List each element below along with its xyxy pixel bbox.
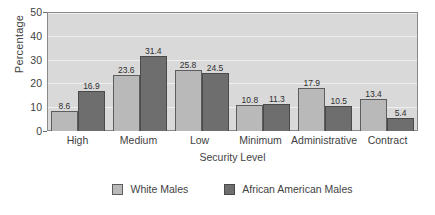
x-tick-label: High [47, 134, 108, 146]
bar-value-label: 5.4 [395, 108, 407, 118]
bar-value-label: 16.9 [83, 81, 100, 91]
y-tick-label: 40 [14, 30, 42, 42]
bar: 10.5 [325, 106, 352, 131]
bar-value-label: 24.5 [207, 63, 224, 73]
legend-swatch [112, 184, 123, 195]
bar-value-label: 23.6 [118, 65, 135, 75]
bar-value-label: 17.9 [303, 78, 320, 88]
bar-group: 23.631.4 [109, 12, 171, 131]
bar: 13.4 [360, 99, 387, 131]
bar-value-label: 13.4 [365, 89, 382, 99]
bar-groups: 8.616.923.631.425.824.510.811.317.910.51… [47, 12, 418, 131]
y-tick-label: 20 [14, 77, 42, 89]
x-axis-title: Security Level [47, 151, 418, 163]
bar: 23.6 [113, 75, 140, 131]
legend-label: White Males [130, 183, 188, 195]
x-tick-label: Low [169, 134, 230, 146]
y-tick-label: 30 [14, 54, 42, 66]
bar: 8.6 [51, 111, 78, 131]
bar: 11.3 [263, 104, 290, 131]
bar: 25.8 [175, 70, 202, 131]
bar-chart-figure: Percentage 50 40 30 20 10 0 8.616.923.63… [0, 0, 435, 215]
bar: 5.4 [387, 118, 414, 131]
y-tick-label: 10 [14, 101, 42, 113]
x-axis-tick-labels: HighMediumLowMinimumAdministrativeContra… [47, 134, 418, 146]
bar-group: 8.616.9 [47, 12, 109, 131]
bar-group: 25.824.5 [171, 12, 233, 131]
bar-group: 10.811.3 [232, 12, 294, 131]
y-tickmark [43, 131, 47, 132]
bar-group: 13.45.4 [356, 12, 418, 131]
bar: 16.9 [78, 91, 105, 131]
bar-value-label: 31.4 [145, 46, 162, 56]
bar: 24.5 [202, 73, 229, 131]
x-tick-label: Administrative [291, 134, 357, 146]
bar-value-label: 10.5 [330, 96, 347, 106]
x-tick-label: Medium [108, 134, 169, 146]
x-tick-label: Minimum [230, 134, 291, 146]
y-tick-label: 50 [14, 6, 42, 18]
bar-value-label: 10.8 [242, 95, 259, 105]
legend-label: African American Males [242, 183, 352, 195]
chart-legend: White MalesAfrican American Males [47, 183, 418, 195]
bar: 10.8 [236, 105, 263, 131]
legend-swatch [224, 184, 235, 195]
bar-value-label: 8.6 [58, 101, 70, 111]
bar-value-label: 25.8 [180, 60, 197, 70]
y-tick-label: 0 [14, 125, 42, 137]
bar-value-label: 11.3 [269, 94, 285, 104]
legend-item: White Males [112, 183, 188, 195]
bar: 31.4 [140, 56, 167, 131]
x-tick-label: Contract [357, 134, 418, 146]
bar-group: 17.910.5 [294, 12, 356, 131]
legend-item: African American Males [224, 183, 352, 195]
y-axis-ticks: 50 40 30 20 10 0 [14, 12, 42, 131]
bar: 17.9 [298, 88, 325, 131]
